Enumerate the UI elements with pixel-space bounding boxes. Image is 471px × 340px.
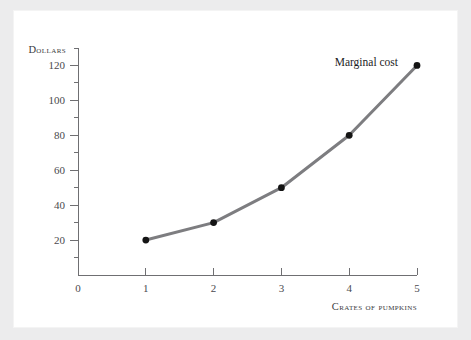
x-axis-title: Crates of pumpkins [332, 301, 417, 312]
y-axis-tick-label: 20 [54, 234, 66, 246]
y-axis-tick-label: 120 [49, 59, 66, 71]
y-axis-tick-label: 80 [54, 129, 66, 141]
series-annotation-label: Marginal cost [335, 56, 399, 69]
x-axis-tick-label: 2 [211, 282, 217, 294]
data-point-marker[interactable] [278, 184, 285, 191]
x-axis-tick-label: 3 [279, 282, 285, 294]
x-axis-tick-label: 4 [346, 282, 352, 294]
x-axis-tick-label: 1 [143, 282, 149, 294]
y-axis-title: Dollars [28, 44, 66, 55]
data-point-marker[interactable] [210, 219, 217, 226]
x-axis-tick-label: 5 [414, 282, 420, 294]
x-axis-tick-label: 0 [75, 282, 81, 294]
data-point-marker[interactable] [414, 62, 421, 69]
marginal-cost-line-chart: 20406080100120012345DollarsCrates of pum… [14, 11, 457, 327]
y-axis-tick-label: 40 [54, 199, 66, 211]
y-axis-tick-label: 100 [49, 94, 66, 106]
figure-panel: 20406080100120012345DollarsCrates of pum… [14, 11, 457, 327]
data-point-marker[interactable] [346, 132, 353, 139]
data-point-marker[interactable] [142, 237, 149, 244]
y-axis-tick-label: 60 [54, 164, 66, 176]
series-line [146, 65, 417, 240]
